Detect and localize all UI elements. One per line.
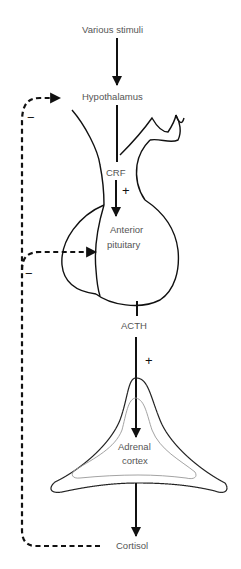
adrenal-gland-outline [51,378,227,492]
diagram-canvas [0,0,241,569]
minus-sign-hypothalamus: − [27,112,35,124]
plus-sign-crf: + [122,185,130,197]
plus-sign-acth: + [145,355,153,367]
label-cortisol: Cortisol [116,540,148,552]
label-anterior-pituitary-1: Anterior [110,224,143,236]
pituitary-gland-outline [62,110,184,305]
label-acth: ACTH [121,320,147,332]
label-adrenal-2: cortex [122,455,148,467]
label-crf: CRF [106,167,126,179]
label-adrenal-1: Adrenal [118,441,151,453]
label-anterior-pituitary-2: pituitary [107,239,140,251]
label-various-stimuli: Various stimuli [82,24,143,36]
minus-sign-pituitary: − [25,268,33,280]
label-hypothalamus: Hypothalamus [82,91,143,103]
